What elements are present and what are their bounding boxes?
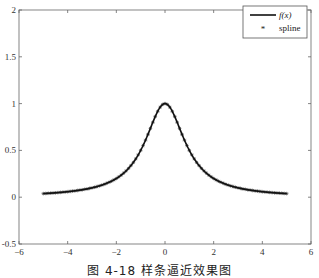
figure-caption: 图 4-18 样条逼近效果图	[0, 261, 319, 278]
x-tick-label: −2	[112, 247, 122, 257]
x-tick-label: −4	[63, 247, 73, 257]
legend: f(x) * spline	[243, 6, 307, 38]
legend-label-fx: f(x)	[279, 10, 292, 20]
x-tick-label: 6	[309, 247, 314, 257]
axis-ticks	[19, 10, 311, 244]
fx-curve	[43, 104, 286, 194]
y-tick-label: 0	[12, 192, 17, 202]
plot-frame	[19, 10, 311, 244]
legend-label-spline: spline	[279, 23, 301, 33]
y-tick-label: 2	[12, 5, 17, 15]
y-tick-label: 1.5	[5, 52, 17, 62]
y-tick-label: 0.5	[5, 145, 17, 155]
legend-asterisk-icon: *	[261, 24, 266, 34]
legend-box	[243, 6, 307, 38]
x-tick-label: 2	[211, 247, 216, 257]
y-tick-labels: -0.500.511.52	[2, 5, 17, 249]
x-tick-labels: −6−4−20246	[14, 247, 314, 257]
y-tick-label: 1	[12, 99, 17, 109]
x-tick-label: 4	[260, 247, 265, 257]
x-tick-label: 0	[163, 247, 168, 257]
spline-markers	[42, 102, 289, 196]
y-tick-label: -0.5	[2, 239, 17, 249]
